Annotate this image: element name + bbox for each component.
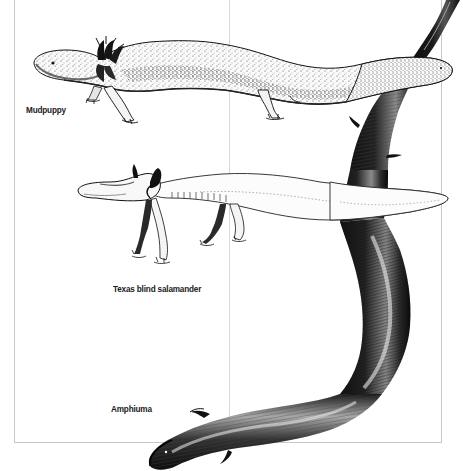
plate-drawing [0, 0, 463, 471]
illustration-plate: Mudpuppy Texas blind salamander Amphiuma [0, 0, 463, 471]
caption-texas-blind-salamander: Texas blind salamander [113, 283, 201, 294]
caption-mudpuppy: Mudpuppy [26, 104, 66, 115]
caption-amphiuma: Amphiuma [111, 403, 152, 414]
